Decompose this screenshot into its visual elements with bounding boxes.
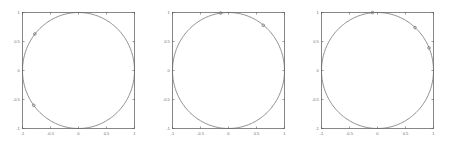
y-tick-label: 1 (18, 10, 21, 15)
axes-frame (23, 13, 135, 129)
x-tick-label: 0.5 (104, 131, 110, 136)
plot-panel-1: -1-0.500.51-1-0.500.51 (0, 0, 150, 150)
axes-frame (173, 13, 285, 129)
y-tick-label: 0.5 (14, 39, 20, 44)
x-tick-label: 0.5 (403, 131, 409, 136)
y-tick-label: 0 (18, 68, 21, 73)
y-tick-label: -0.5 (163, 97, 171, 102)
x-tick-label: -1 (171, 131, 175, 136)
plot-svg-3: -1-0.500.51-1-0.500.51 (299, 0, 449, 150)
y-tick-label: 0.5 (313, 39, 319, 44)
x-tick-label: 1 (283, 131, 286, 136)
x-tick-label: 1 (133, 131, 136, 136)
x-tick-label: -0.5 (197, 131, 205, 136)
plot-svg-1: -1-0.500.51-1-0.500.51 (0, 0, 150, 150)
y-tick-label: -0.5 (13, 97, 21, 102)
x-tick-label: -0.5 (47, 131, 55, 136)
y-tick-label: 0.5 (164, 39, 170, 44)
x-tick-label: 0 (77, 131, 80, 136)
axes-frame (322, 13, 434, 129)
y-tick-label: 1 (317, 10, 320, 15)
plot-panel-2: -1-0.500.51-1-0.500.51 (150, 0, 300, 150)
x-tick-label: 0 (376, 131, 379, 136)
x-tick-label: -0.5 (346, 131, 354, 136)
x-tick-label: 1 (432, 131, 435, 136)
y-tick-label: -0.5 (312, 97, 320, 102)
x-tick-label: -1 (21, 131, 25, 136)
y-tick-label: 0 (168, 68, 171, 73)
x-tick-label: 0 (227, 131, 230, 136)
plot-panel-3: -1-0.500.51-1-0.500.51 (299, 0, 449, 150)
y-tick-label: 0 (317, 68, 320, 73)
figure-canvas: -1-0.500.51-1-0.500.51 -1-0.500.51-1-0.5… (0, 0, 449, 150)
plot-svg-2: -1-0.500.51-1-0.500.51 (150, 0, 300, 150)
x-tick-label: 0.5 (254, 131, 260, 136)
x-tick-label: -1 (320, 131, 324, 136)
y-tick-label: 1 (168, 10, 171, 15)
